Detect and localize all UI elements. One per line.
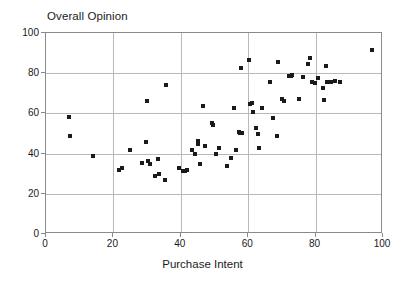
chart-title: Overall Opinion [47,10,128,22]
data-point [247,58,251,62]
gridline-vertical [181,33,182,232]
data-point [232,106,236,110]
data-point [271,116,275,120]
data-point [276,60,280,64]
data-point [268,80,272,84]
plot-area [45,32,382,233]
y-tick-mark [41,72,45,73]
x-axis-tick-labels: 020406080100 [45,238,382,252]
data-point [144,140,148,144]
data-point [297,97,301,101]
data-point [240,131,244,135]
x-tick-mark [247,233,248,237]
data-point [211,123,215,127]
data-point [164,83,168,87]
data-point [254,126,258,130]
y-tick-label: 80 [28,67,39,78]
y-tick-label: 40 [28,147,39,158]
data-point [229,156,233,160]
data-point [239,66,243,70]
data-point [370,48,374,52]
y-axis-tick-labels: 020406080100 [10,32,39,233]
y-tick-mark [41,32,45,33]
x-tick-label: 60 [242,238,253,249]
scatter-chart: Overall Opinion 020406080100 02040608010… [0,0,405,290]
data-point [128,148,132,152]
y-tick-mark [41,193,45,194]
data-point [256,132,260,136]
data-point [225,164,229,168]
data-point [201,104,205,108]
data-point [196,142,200,146]
data-point [250,101,254,105]
data-point [214,152,218,156]
data-point [67,115,71,119]
data-point [157,172,161,176]
data-point [290,73,294,77]
data-point [251,110,255,114]
data-point [275,134,279,138]
data-point [156,157,160,161]
x-tick-label: 20 [107,238,118,249]
data-point [193,152,197,156]
data-point [260,106,264,110]
y-tick-mark [41,112,45,113]
x-tick-mark [382,233,383,237]
y-tick-label: 60 [28,107,39,118]
data-point [316,76,320,80]
data-point [185,168,189,172]
data-point [333,79,337,83]
data-point [313,81,317,85]
data-point [234,148,238,152]
gridline-horizontal [46,113,381,114]
x-tick-label: 0 [42,238,48,249]
data-point [306,62,310,66]
gridline-horizontal [46,194,381,195]
data-point [198,162,202,166]
data-point [148,162,152,166]
data-point [308,56,312,60]
y-tick-label: 0 [33,228,39,239]
x-tick-label: 80 [309,238,320,249]
y-tick-label: 100 [22,27,39,38]
gridline-vertical [113,33,114,232]
data-point [257,146,261,150]
gridline-vertical [248,33,249,232]
data-point [68,134,72,138]
x-axis-title: Purchase Intent [0,258,405,270]
x-tick-mark [45,233,46,237]
data-point [91,154,95,158]
y-tick-mark [41,153,45,154]
x-tick-mark [112,233,113,237]
data-point [322,98,326,102]
data-point [140,161,144,165]
data-point [338,80,342,84]
data-point [145,99,149,103]
data-point [153,174,157,178]
data-point [120,166,124,170]
x-tick-label: 40 [174,238,185,249]
data-point [321,86,325,90]
data-point [301,75,305,79]
data-point [203,144,207,148]
data-point [324,64,328,68]
y-tick-label: 20 [28,187,39,198]
x-tick-label: 100 [374,238,391,249]
gridline-horizontal [46,73,381,74]
data-point [163,178,167,182]
x-tick-mark [315,233,316,237]
data-point [217,146,221,150]
data-point [282,99,286,103]
gridline-vertical [316,33,317,232]
x-tick-mark [180,233,181,237]
